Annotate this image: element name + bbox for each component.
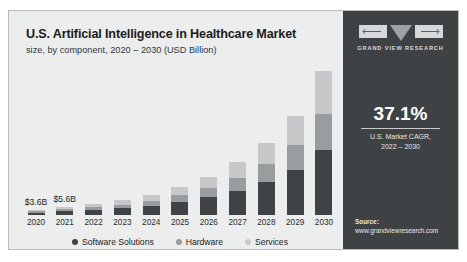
stacked-bar[interactable] [229,162,246,215]
stacked-bar[interactable] [114,200,131,215]
x-axis-tick: 2021 [55,218,75,227]
x-axis-tick: 2026 [199,218,219,227]
bar-segment [315,114,332,150]
stacked-bar[interactable] [200,177,217,215]
bar-slot [84,67,104,215]
bar-slot: $5.6B [55,67,75,215]
x-axis: 2020202120222023202420252026202720282029… [26,218,334,227]
legend-label: Hardware [186,237,223,247]
bar-slot [256,67,276,215]
bar-slot: $3.6B [26,67,46,215]
page-subtitle: size, by component, 2020 – 2030 (USD Bil… [26,45,217,55]
stacked-bar[interactable] [258,143,275,215]
bar-segment [258,143,275,164]
infographic-card: U.S. Artificial Intelligence in Healthca… [8,10,459,250]
bar-group: $3.6B$5.6B [26,67,334,215]
legend-marker-icon [176,239,182,245]
bar-segment [258,164,275,182]
x-axis-tick: 2020 [26,218,46,227]
bar-value-label: $3.6B [25,197,47,207]
logo-triangle-icon [390,25,412,41]
legend-item[interactable]: Services [245,237,288,247]
logo-marks [343,25,458,42]
bar-slot [228,67,248,215]
bar-slot [112,67,132,215]
cagr-caption-line2: 2022 – 2030 [343,142,458,152]
legend-marker-icon [72,239,78,245]
bar-value-label: $5.6B [54,194,76,204]
x-axis-tick: 2028 [256,218,276,227]
legend-item[interactable]: Hardware [176,237,223,247]
bar-segment [28,213,45,215]
x-axis-tick: 2023 [112,218,132,227]
chart-legend: Software SolutionsHardwareServices [26,237,334,247]
stacked-bar[interactable] [287,116,304,215]
x-axis-tick: 2027 [228,218,248,227]
bar-segment [229,178,246,191]
bar-segment [229,191,246,215]
bar-segment [171,187,188,195]
bar-slot [170,67,190,215]
stacked-bar[interactable] [28,210,45,215]
plot-area: $3.6B$5.6B [26,67,334,215]
cagr-value: 37.1% [343,103,458,125]
legend-label: Software Solutions [82,237,154,247]
cagr-caption: U.S. Market CAGR, 2022 – 2030 [343,132,458,152]
chart-panel: U.S. Artificial Intelligence in Healthca… [9,11,343,249]
bar-slot [141,67,161,215]
bar-slot [314,67,334,215]
source-url[interactable]: www.grandviewresearch.com [355,226,438,235]
stacked-bar[interactable] [143,195,160,215]
bar-slot [285,67,305,215]
stacked-bar[interactable] [171,187,188,215]
x-axis-tick: 2025 [170,218,190,227]
bar-segment [315,150,332,215]
bar-segment [200,188,217,198]
x-axis-tick: 2024 [141,218,161,227]
stacked-bar[interactable] [85,204,102,215]
brand-logo: GRAND VIEW RESEARCH [343,25,458,51]
legend-item[interactable]: Software Solutions [72,237,154,247]
logo-right-arrow-icon [415,25,443,38]
bar-segment [287,116,304,145]
logo-left-arrow-icon [359,25,387,38]
brand-panel: GRAND VIEW RESEARCH 37.1% U.S. Market CA… [343,11,458,249]
bar-segment [143,206,160,215]
bar-segment [171,202,188,215]
stacked-bar[interactable] [315,71,332,215]
source-block: Source: www.grandviewresearch.com [355,217,438,235]
bar-segment [171,195,188,202]
bar-segment [85,210,102,215]
cagr-divider [361,128,440,129]
bar-segment [200,197,217,215]
page-title: U.S. Artificial Intelligence in Healthca… [26,27,296,41]
legend-marker-icon [245,239,251,245]
bar-segment [56,211,73,215]
x-axis-tick: 2029 [285,218,305,227]
cagr-caption-line1: U.S. Market CAGR, [343,132,458,142]
bar-slot [199,67,219,215]
bar-segment [287,145,304,170]
bar-segment [114,208,131,215]
source-label: Source: [355,217,438,226]
bar-segment [258,182,275,215]
bar-segment [229,162,246,177]
stacked-bar[interactable] [56,207,73,215]
bar-segment [287,170,304,215]
legend-label: Services [255,237,288,247]
x-axis-tick: 2030 [314,218,334,227]
x-axis-tick: 2022 [84,218,104,227]
logo-wordmark: GRAND VIEW RESEARCH [343,45,458,51]
bar-segment [315,71,332,114]
bar-segment [200,177,217,188]
